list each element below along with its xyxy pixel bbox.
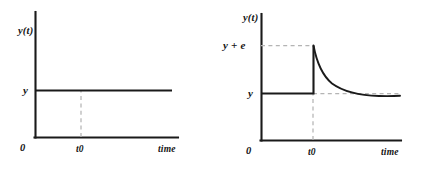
origin-label: 0	[20, 143, 25, 154]
chart-left-no-disturbance: y(t) y 0 t0 time	[0, 0, 210, 179]
series-step-rise	[261, 46, 314, 94]
y-value-label: y	[23, 85, 28, 96]
y-peak-label: y + e	[223, 40, 246, 51]
x-tick-label-t0: t0	[308, 148, 316, 158]
figure-root: y(t) y 0 t0 time y(t) y + e y 0 t0 ti	[0, 0, 421, 179]
y-value-label: y	[248, 88, 253, 99]
series-exponential-decay	[314, 46, 401, 97]
y-axis-label: y(t)	[243, 13, 258, 24]
x-axis-label: time	[381, 148, 399, 158]
x-tick-label-t0: t0	[76, 145, 84, 155]
y-axis-label: y(t)	[18, 26, 33, 37]
x-axis-label: time	[158, 145, 176, 155]
chart-right-step-disturbance: y(t) y + e y 0 t0 time	[211, 0, 421, 179]
origin-label: 0	[246, 146, 251, 157]
